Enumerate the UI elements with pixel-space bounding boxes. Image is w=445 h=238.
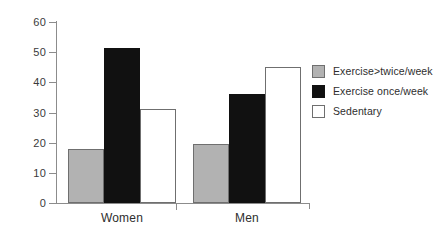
y-axis-tick-label: 60	[2, 17, 46, 28]
y-axis-tick-label: 50	[2, 47, 46, 58]
legend: Exercise>twice/weekExercise once/weekSed…	[312, 62, 442, 122]
y-axis-tick-label: 30	[2, 108, 46, 119]
legend-swatch-icon	[312, 65, 325, 78]
legend-label: Sedentary	[333, 105, 382, 117]
legend-item[interactable]: Exercise once/week	[312, 82, 442, 100]
y-axis-tick	[49, 173, 56, 174]
x-axis-end-tick	[309, 203, 310, 209]
bar-men-series-2	[265, 67, 301, 203]
legend-item[interactable]: Sedentary	[312, 102, 442, 120]
bar-chart: 0102030405060 WomenMen Exercise>twice/we…	[0, 0, 445, 238]
y-axis-tick	[49, 52, 56, 53]
bar-men-series-0	[193, 144, 229, 203]
y-axis-tick	[49, 143, 56, 144]
y-axis-tick-label: 10	[2, 168, 46, 179]
y-axis-tick-label: 20	[2, 138, 46, 149]
y-axis-tick	[49, 203, 56, 204]
x-axis-label-women: Women	[77, 212, 167, 224]
legend-swatch-icon	[312, 85, 325, 98]
bar-women-series-0	[68, 149, 104, 203]
bar-women-series-2	[140, 109, 176, 203]
y-axis-tick-label: 0	[2, 198, 46, 209]
y-axis-tick	[49, 22, 56, 23]
y-axis-tick-label: 40	[2, 77, 46, 88]
plot-area	[57, 22, 309, 203]
y-axis-tick	[49, 82, 56, 83]
bar-men-series-1	[229, 94, 265, 203]
x-axis-label-men: Men	[202, 212, 292, 224]
legend-swatch-icon	[312, 105, 325, 118]
x-axis-group-separator-tick	[176, 203, 177, 210]
x-axis-line	[56, 203, 310, 204]
bar-women-series-1	[104, 48, 140, 203]
y-axis-tick	[49, 113, 56, 114]
legend-item[interactable]: Exercise>twice/week	[312, 62, 442, 80]
legend-label: Exercise once/week	[333, 85, 428, 97]
legend-label: Exercise>twice/week	[333, 65, 433, 77]
